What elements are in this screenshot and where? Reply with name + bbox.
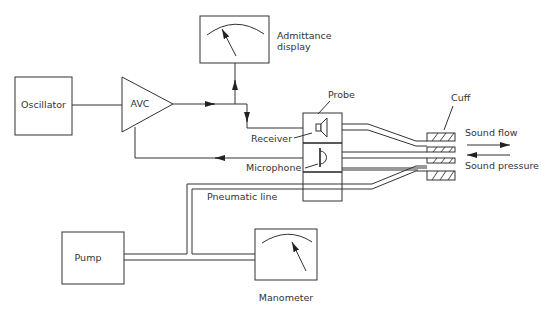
oscillator-block: Oscillator xyxy=(15,77,72,135)
microphone-label: Microphone xyxy=(246,162,301,173)
admittance-display-meter xyxy=(200,16,269,63)
sound-pressure-label: Sound pressure xyxy=(465,160,539,171)
cuff-label: Cuff xyxy=(451,92,471,103)
sound-flow-label: Sound flow xyxy=(465,127,518,138)
cuff xyxy=(427,133,455,180)
admittance-display-label-1: Admittance xyxy=(277,30,332,41)
receiver-label: Receiver xyxy=(251,133,292,144)
cuff-leader xyxy=(444,106,453,130)
oscillator-label: Oscillator xyxy=(21,99,66,110)
probe-label: Probe xyxy=(328,89,355,100)
tympanometry-diagram: Oscillator AVC Admittance display xyxy=(0,0,541,314)
probe-tubes xyxy=(342,124,427,170)
pump-tubing xyxy=(124,254,255,260)
manometer-label: Manometer xyxy=(259,292,314,303)
pneumatic-line-label: Pneumatic line xyxy=(207,191,277,202)
probe-leader xyxy=(318,101,330,114)
admittance-display-label-2: display xyxy=(277,41,311,52)
pump-label: Pump xyxy=(75,252,102,263)
manometer-meter xyxy=(255,229,317,280)
pump-block: Pump xyxy=(62,232,124,284)
avc-label: AVC xyxy=(130,98,149,109)
avc-amplifier: AVC xyxy=(122,77,173,132)
probe-block xyxy=(303,113,342,201)
